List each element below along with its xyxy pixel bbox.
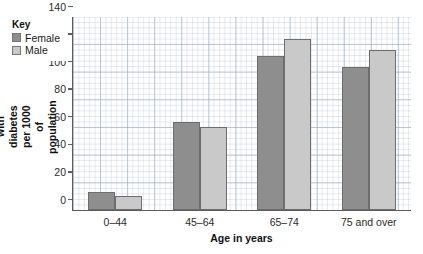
bar-male-0 <box>115 196 142 210</box>
y-axis-tick-label: 140 <box>48 1 73 12</box>
legend-item-male: Male <box>12 44 60 56</box>
x-axis-tick-label: 75 and over <box>341 216 396 228</box>
bar-chart: Number with diabetes per 1000 of populat… <box>0 0 423 254</box>
bar-male-2 <box>284 39 311 210</box>
female-swatch-icon <box>12 33 21 42</box>
x-axis-title: Age in years <box>72 232 411 244</box>
bar-group <box>73 17 158 210</box>
bar-female-0 <box>88 192 115 210</box>
legend-item-female: Female <box>12 32 60 44</box>
bar-group <box>158 17 243 210</box>
bar-group <box>242 17 327 210</box>
y-axis-tick-label: 80 <box>54 84 73 95</box>
male-swatch-icon <box>12 46 21 55</box>
x-axis-tick-label: 0–44 <box>104 216 127 228</box>
y-axis-tick-label: 0 <box>60 194 73 205</box>
bar-male-1 <box>200 127 227 210</box>
legend-label-male: Male <box>25 44 48 56</box>
x-axis-tick-label: 45–64 <box>185 216 214 228</box>
bar-male-3 <box>369 50 396 210</box>
bar-female-3 <box>342 67 369 210</box>
y-axis-tick-label: 20 <box>54 167 73 178</box>
y-axis-title-text: Number with diabetes per 1000 of populat… <box>0 100 59 154</box>
bar-female-1 <box>173 122 200 210</box>
y-axis-tick-label: 40 <box>54 139 73 150</box>
legend-label-female: Female <box>25 32 60 44</box>
plot-area: 0204060801001201400–4445–6465–7475 and o… <box>72 17 411 211</box>
legend-title: Key <box>12 19 60 31</box>
x-axis-tick-label: 65–74 <box>270 216 299 228</box>
bar-female-2 <box>257 56 284 210</box>
legend: Key Female Male <box>8 16 68 61</box>
bar-group <box>327 17 412 210</box>
y-axis-tick-label: 60 <box>54 112 73 123</box>
